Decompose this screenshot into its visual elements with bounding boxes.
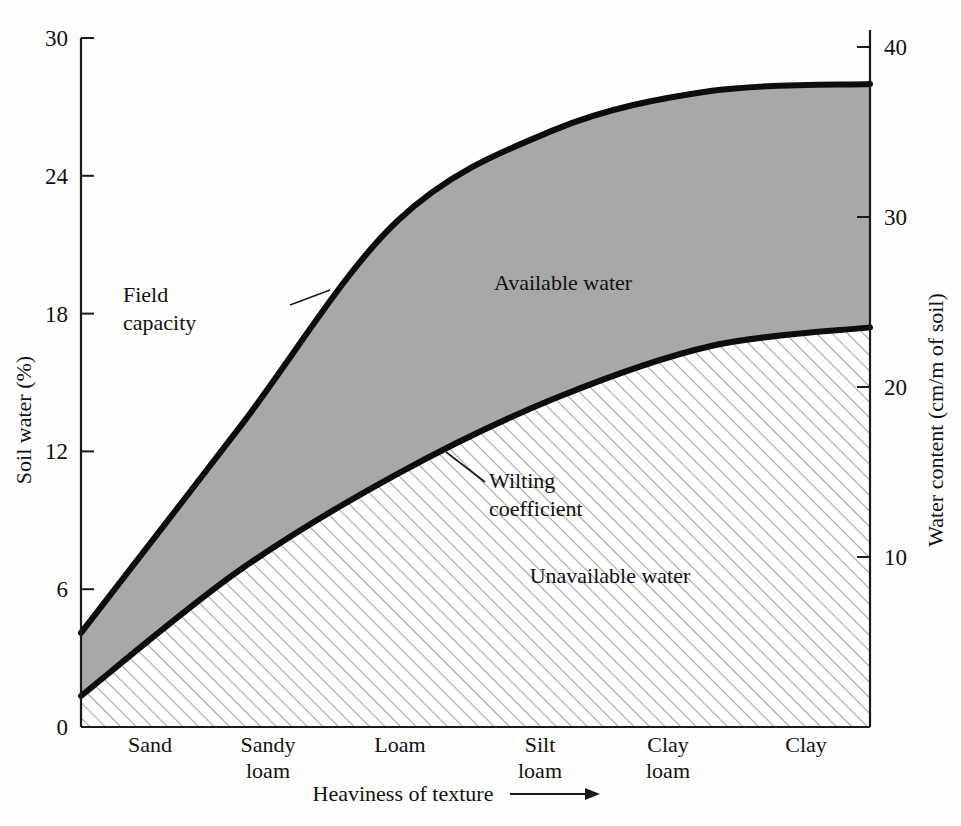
x-axis-title: Heaviness of texture (313, 781, 494, 806)
left-tick-label: 18 (45, 302, 68, 327)
right-axis-title: Water content (cm/m of soil) (923, 293, 948, 547)
unavailable-water-label: Unavailable water (530, 563, 691, 588)
x-category-label: Loam (374, 732, 425, 757)
x-category-label: Silt (525, 732, 556, 757)
left-tick-label: 12 (45, 439, 68, 464)
x-category-label-line2: loam (246, 758, 290, 783)
left-axis-title: Soil water (%) (11, 356, 36, 484)
x-category-label: Clay (785, 732, 827, 757)
field-capacity-label-line1: Field (123, 282, 168, 307)
right-tick-label: 10 (884, 545, 907, 570)
right-tick-label: 20 (884, 375, 907, 400)
figure-container: 0612182430 10203040 SandSandyloamLoamSil… (0, 0, 961, 826)
left-tick-label: 24 (45, 164, 69, 189)
left-tick-label: 0 (57, 715, 69, 740)
x-category-label-line2: loam (646, 758, 690, 783)
field-capacity-label-line2: capacity (123, 310, 196, 335)
available-water-label: Available water (494, 270, 633, 295)
x-category-label: Sand (128, 732, 172, 757)
right-tick-label: 40 (884, 35, 907, 60)
x-category-label-line2: loam (518, 758, 562, 783)
right-tick-label: 30 (884, 205, 907, 230)
left-tick-label: 6 (57, 577, 69, 602)
wilting-coefficient-label-line1: Wilting (489, 468, 555, 493)
wilting-coefficient-label-line2: coefficient (489, 496, 583, 521)
x-category-label: Sandy (241, 732, 296, 757)
soil-water-chart: 0612182430 10203040 SandSandyloamLoamSil… (0, 0, 961, 826)
left-tick-label: 30 (45, 26, 68, 51)
x-category-label: Clay (647, 732, 689, 757)
